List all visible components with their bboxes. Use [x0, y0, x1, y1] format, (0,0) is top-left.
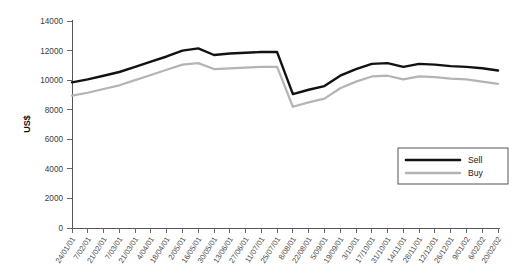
y-axis-title: US$ — [22, 115, 32, 133]
legend-label-buy: Buy — [468, 168, 484, 178]
y-tick-label: 2000 — [45, 194, 64, 203]
y-axis: 02000400060008000100001200014000 — [40, 17, 72, 233]
legend-label-sell: Sell — [468, 155, 482, 165]
y-tick-label: 0 — [58, 224, 63, 233]
series-lines — [72, 48, 498, 106]
y-tick-label: 14000 — [40, 17, 63, 26]
x-tick-label: 24/01/01 — [54, 235, 78, 265]
y-tick-label: 8000 — [45, 106, 64, 115]
line-chart: 02000400060008000100001200014000 24/01/0… — [0, 0, 529, 280]
y-tick-label: 12000 — [40, 47, 63, 56]
y-tick-label: 6000 — [45, 135, 64, 144]
legend-box — [398, 148, 508, 184]
series-line-buy — [72, 63, 498, 107]
y-tick-label: 4000 — [45, 165, 64, 174]
y-tick-label: 10000 — [40, 76, 63, 85]
x-axis: 24/01/017/02/0121/02/017/03/0121/03/014/… — [54, 228, 504, 265]
chart-container: 02000400060008000100001200014000 24/01/0… — [0, 0, 529, 280]
chart-legend: SellBuy — [398, 148, 508, 184]
